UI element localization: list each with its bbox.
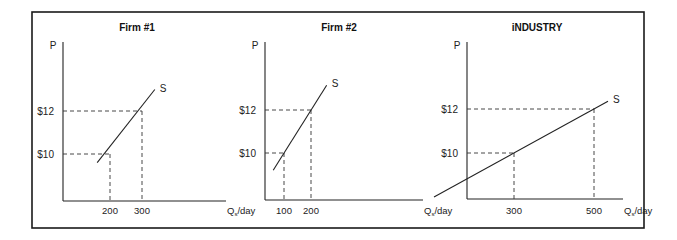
panel-3-supply-curve [434,101,608,197]
panel-1-x-tick-label: 300 [134,205,150,216]
panel-3-x-tick-label: 300 [506,205,522,216]
panel-3-supply-curve-label: S [613,94,620,105]
panel-2-x-axis-label: Qs/day [424,205,453,217]
panel-3-y-tick-label: $12 [441,104,458,115]
panel-2-y-tick-label: $10 [239,148,256,159]
panel-1-x-tick-label: 200 [102,205,118,216]
panel-3-x-tick-label: 500 [586,205,602,216]
panel-2-supply-curve-label: S [332,78,339,89]
panel-1-y-tick-label: $10 [37,149,54,160]
panel-3-x-axis-label: Qs/day [624,205,653,217]
panel-2-y-tick-label: $12 [239,105,256,116]
panel-3-y-tick-label: $10 [441,148,458,159]
panel-2-x-tick-label: 200 [303,205,319,216]
panel-1-supply-curve-label: S [160,83,167,94]
panel-3-y-axis-label: P [454,40,461,51]
panel-1-x-axis-label: Qs/day [227,205,256,217]
figure-frame [32,12,644,228]
panel-1-title: Firm #1 [119,22,155,33]
panel-2-x-tick-label: 100 [276,205,292,216]
panel-1-y-axis-label: P [50,40,57,51]
panel-1-y-tick-label: $12 [37,106,54,117]
panel-1-supply-curve [97,90,155,163]
panel-2-title: Firm #2 [321,22,357,33]
panel-2-supply-curve [273,85,326,170]
panel-2-y-axis-label: P [252,40,259,51]
supply-charts-figure: Firm #1PQs/day$10$12200300SFirm #2PQs/da… [0,0,677,240]
panel-3-title: iNDUSTRY [512,22,563,33]
